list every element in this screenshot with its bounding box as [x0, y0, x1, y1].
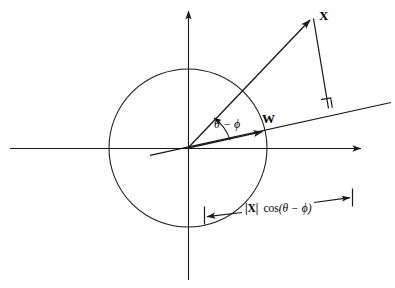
- angle-label: θ − ϕ: [214, 118, 240, 130]
- vector-x-label: X: [319, 9, 328, 22]
- projection-magnitude-text: |X|: [245, 202, 258, 214]
- vector-w-label: W: [262, 112, 275, 125]
- perpendicular-drop-line: [314, 19, 329, 109]
- projection-dimension-label: |X|cos(θ − ϕ): [245, 203, 312, 215]
- figure-container: X W θ − ϕ |X|cos(θ − ϕ): [0, 0, 395, 288]
- projection-argument-text: (θ − ϕ): [279, 202, 312, 214]
- dimension-arrow-left: [207, 213, 242, 217]
- projection-function-text: cos: [263, 202, 278, 214]
- x-vector-arrow: [188, 20, 310, 148]
- w-vector-arrow: [188, 132, 263, 148]
- dimension-arrow-right: [314, 198, 350, 203]
- diagram-canvas: [0, 0, 395, 288]
